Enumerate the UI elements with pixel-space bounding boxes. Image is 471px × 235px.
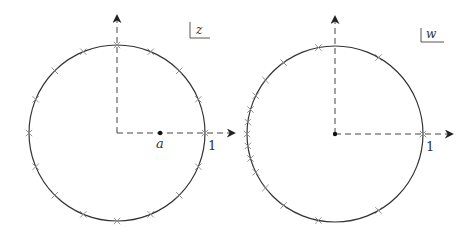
point-a-label: a (156, 136, 164, 151)
plane-label-z: z (195, 23, 203, 37)
x-mark (253, 169, 259, 175)
x-mark (176, 68, 182, 74)
unit-label-z: 1 (208, 138, 216, 153)
x-mark (195, 96, 201, 102)
x-mark (262, 185, 268, 191)
x-mark (280, 59, 286, 65)
x-mark (80, 211, 86, 217)
w-plane-panel: 1 w (244, 16, 453, 224)
x-mark (147, 211, 153, 217)
plane-label-box-z: z (190, 22, 210, 38)
x-mark (32, 96, 38, 102)
x-mark (262, 77, 268, 83)
x-mark (32, 163, 38, 169)
unit-label-w: 1 (426, 139, 434, 154)
x-mark (375, 207, 381, 213)
conformal-map-diagram: a 1 z 1 w (0, 0, 471, 235)
origin-dot-w (333, 132, 337, 136)
plane-label-w: w (426, 27, 437, 41)
x-mark (52, 192, 58, 198)
point-a-dot (158, 131, 162, 135)
x-mark (80, 48, 86, 54)
x-mark (52, 68, 58, 74)
x-mark (147, 48, 153, 54)
plane-label-box-w: w (421, 27, 444, 42)
x-mark (280, 202, 286, 208)
z-plane-panel: a 1 z (26, 15, 235, 224)
x-mark (195, 163, 201, 169)
x-mark (375, 54, 381, 60)
x-mark (176, 192, 182, 198)
x-mark (253, 93, 259, 99)
